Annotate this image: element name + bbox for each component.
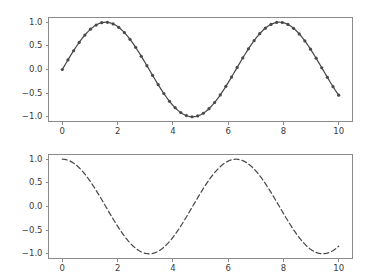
svg-text:4: 4 — [170, 263, 175, 273]
data-marker — [174, 106, 177, 109]
svg-text:4: 4 — [170, 126, 175, 136]
data-marker — [89, 28, 92, 31]
data-marker — [292, 27, 295, 30]
figure-canvas: −1.0−0.50.00.51.00246810 −1.0−0.50.00.51… — [0, 0, 366, 275]
subplot-cosine: −1.0−0.50.00.51.00246810 — [0, 137, 366, 275]
svg-text:8: 8 — [281, 263, 286, 273]
data-marker — [241, 56, 244, 59]
svg-text:8: 8 — [281, 126, 286, 136]
svg-text:6: 6 — [225, 263, 230, 273]
svg-text:0: 0 — [60, 263, 65, 273]
svg-text:−1.0: −1.0 — [22, 248, 43, 258]
cosine-axes: −1.0−0.50.00.51.00246810 — [0, 137, 366, 275]
svg-text:0.5: 0.5 — [29, 177, 43, 187]
data-marker — [337, 94, 340, 97]
data-marker — [264, 27, 267, 30]
svg-text:0.0: 0.0 — [29, 64, 43, 74]
svg-text:−0.5: −0.5 — [22, 225, 43, 235]
data-marker — [185, 114, 188, 117]
data-marker — [128, 38, 131, 41]
data-marker — [111, 22, 114, 25]
sine-line — [63, 22, 338, 117]
sine-axes: −1.0−0.50.00.51.00246810 — [0, 0, 366, 138]
data-marker — [275, 21, 278, 24]
data-marker — [61, 68, 64, 71]
svg-text:10: 10 — [333, 126, 344, 136]
data-marker — [286, 23, 289, 26]
data-marker — [320, 66, 323, 69]
data-marker — [230, 75, 233, 78]
data-marker — [213, 101, 216, 104]
data-marker — [117, 26, 120, 29]
data-marker — [207, 107, 210, 110]
data-marker — [202, 112, 205, 115]
data-marker — [179, 111, 182, 114]
data-marker — [123, 31, 126, 34]
svg-text:0.5: 0.5 — [29, 40, 43, 50]
svg-text:−1.0: −1.0 — [22, 111, 43, 121]
cosine-line — [62, 159, 338, 254]
data-marker — [219, 93, 222, 96]
data-marker — [196, 114, 199, 117]
data-marker — [100, 21, 103, 24]
data-marker — [309, 48, 312, 51]
data-marker — [247, 47, 250, 50]
data-marker — [281, 21, 284, 24]
svg-text:2: 2 — [115, 126, 120, 136]
svg-text:0.0: 0.0 — [29, 201, 43, 211]
data-marker — [269, 23, 272, 26]
data-marker — [315, 57, 318, 60]
svg-text:−0.5: −0.5 — [22, 88, 43, 98]
data-marker — [224, 85, 227, 88]
svg-text:10: 10 — [333, 263, 344, 273]
data-marker — [151, 74, 154, 77]
data-marker — [190, 115, 193, 118]
data-marker — [145, 64, 148, 67]
data-marker — [298, 32, 301, 35]
data-marker — [72, 49, 75, 52]
data-marker — [157, 83, 160, 86]
data-marker — [78, 41, 81, 44]
subplot-sine: −1.0−0.50.00.51.00246810 — [0, 0, 366, 138]
svg-text:0: 0 — [60, 126, 65, 136]
data-marker — [140, 55, 143, 58]
data-marker — [95, 23, 98, 26]
data-marker — [66, 58, 69, 61]
data-marker — [236, 66, 239, 69]
data-marker — [168, 100, 171, 103]
data-marker — [331, 85, 334, 88]
data-marker — [252, 39, 255, 42]
svg-text:6: 6 — [225, 126, 230, 136]
svg-text:1.0: 1.0 — [29, 17, 43, 27]
data-marker — [134, 46, 137, 49]
data-marker — [326, 76, 329, 79]
svg-text:1.0: 1.0 — [29, 154, 43, 164]
data-marker — [106, 21, 109, 24]
data-marker — [162, 92, 165, 95]
data-marker — [83, 33, 86, 36]
data-marker — [258, 32, 261, 35]
svg-text:2: 2 — [115, 263, 120, 273]
data-marker — [303, 39, 306, 42]
